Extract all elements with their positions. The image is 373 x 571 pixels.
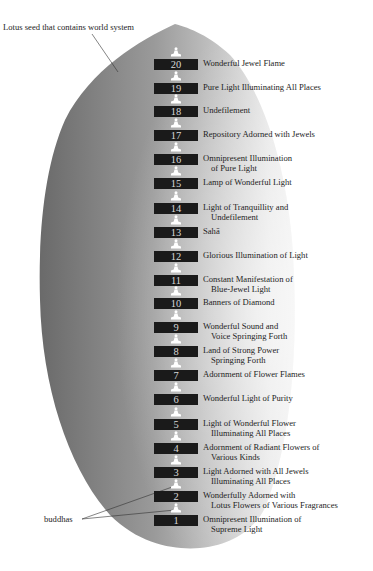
world-number: 7 bbox=[154, 370, 198, 381]
world-name-line1: Glorious Illumination of Light bbox=[203, 250, 308, 260]
buddha-icon bbox=[170, 94, 182, 104]
buddha-icon bbox=[170, 286, 182, 296]
world-name: Lamp of Wonderful Light bbox=[203, 177, 292, 187]
world-name-line1: Pure Light Illuminating All Places bbox=[203, 82, 321, 92]
world-name-line1: Light of Wonderful Flower bbox=[203, 418, 296, 428]
buddha-icon bbox=[170, 215, 182, 225]
world-number: 11 bbox=[154, 275, 198, 286]
world-name: Wonderful Jewel Flame bbox=[203, 58, 285, 68]
world-name: Wonderfully Adorned with Lotus Flowers o… bbox=[203, 490, 338, 510]
world-name: Omnipresent Illumination of Pure Light bbox=[203, 153, 292, 173]
world-number: 19 bbox=[154, 83, 198, 94]
world-name-line1: Constant Manifestation of bbox=[203, 274, 293, 284]
world-name-line1: Omnipresent Illumination bbox=[203, 153, 292, 163]
world-number: 18 bbox=[154, 106, 198, 117]
world-name: Adornment of Radiant Flowers of Various … bbox=[203, 442, 319, 462]
world-name: Omnipresent Illumination of Supreme Ligh… bbox=[203, 514, 301, 534]
world-name-line1: Banners of Diamond bbox=[203, 297, 275, 307]
world-number: 14 bbox=[154, 203, 198, 214]
world-name-line2: Undefilement bbox=[203, 212, 288, 222]
buddha-icon bbox=[170, 166, 182, 176]
world-name: Repository Adorned with Jewels bbox=[203, 129, 315, 139]
world-name: Pure Light Illuminating All Places bbox=[203, 82, 321, 92]
seed-label: Lotus seed that contains world system bbox=[3, 22, 134, 32]
world-number: 17 bbox=[154, 130, 198, 141]
world-name-line2: Illuminating All Places bbox=[203, 476, 309, 486]
world-name-line1: Adornment of Radiant Flowers of bbox=[203, 442, 319, 452]
world-number: 20 bbox=[154, 59, 198, 70]
world-name: Land of Strong Power Springing Forth bbox=[203, 345, 279, 365]
lotus-world-system-diagram: Lotus seed that contains world system bu… bbox=[0, 0, 373, 571]
world-number: 13 bbox=[154, 227, 198, 238]
world-number: 4 bbox=[154, 443, 198, 454]
world-name: Wonderful Light of Purity bbox=[203, 393, 293, 403]
world-number: 2 bbox=[154, 491, 198, 502]
buddha-icon bbox=[170, 358, 182, 368]
world-name-line1: Repository Adorned with Jewels bbox=[203, 129, 315, 139]
buddha-icon bbox=[170, 191, 182, 201]
world-name-line2: Supreme Light bbox=[203, 524, 301, 534]
buddha-icon bbox=[170, 382, 182, 392]
buddha-icon bbox=[170, 455, 182, 465]
world-number: 9 bbox=[154, 322, 198, 333]
world-number: 8 bbox=[154, 346, 198, 357]
world-name-line1: Omnipresent Illumination of bbox=[203, 514, 301, 524]
world-name: Sahā bbox=[203, 226, 220, 236]
world-name-line1: Lamp of Wonderful Light bbox=[203, 177, 292, 187]
world-name: Light of Tranquillity and Undefilement bbox=[203, 202, 288, 222]
world-number: 3 bbox=[154, 467, 198, 478]
world-name: Wonderful Sound and Voice Springing Fort… bbox=[203, 321, 287, 341]
world-name-line1: Land of Strong Power bbox=[203, 345, 279, 355]
world-name-line1: Adornment of Flower Flames bbox=[203, 369, 305, 379]
world-number: 5 bbox=[154, 419, 198, 430]
world-name: Adornment of Flower Flames bbox=[203, 369, 305, 379]
world-name-line2: Voice Springing Forth bbox=[203, 331, 287, 341]
world-name-line2: Lotus Flowers of Various Fragrances bbox=[203, 500, 338, 510]
buddha-icon bbox=[170, 310, 182, 320]
buddha-icon bbox=[170, 479, 182, 489]
world-name-line1: Wonderfully Adorned with bbox=[203, 490, 295, 500]
world-name-line1: Wonderful Light of Purity bbox=[203, 393, 293, 403]
world-name-line1: Sahā bbox=[203, 226, 220, 236]
world-number: 12 bbox=[154, 251, 198, 262]
buddha-icon bbox=[170, 407, 182, 417]
world-name-line2: Blue-Jewel Light bbox=[203, 284, 293, 294]
world-name-line1: Light Adorned with All Jewels bbox=[203, 466, 309, 476]
buddha-icon bbox=[170, 142, 182, 152]
world-name-line1: Wonderful Sound and bbox=[203, 321, 278, 331]
world-name: Light of Wonderful Flower Illuminating A… bbox=[203, 418, 296, 438]
buddha-icon bbox=[170, 118, 182, 128]
buddha-icon bbox=[170, 47, 182, 57]
world-name-line1: Light of Tranquillity and bbox=[203, 202, 288, 212]
world-number: 16 bbox=[154, 154, 198, 165]
world-name-line2: Various Kinds bbox=[203, 452, 319, 462]
buddha-icon bbox=[170, 334, 182, 344]
world-number: 6 bbox=[154, 394, 198, 405]
world-number: 1 bbox=[154, 515, 198, 526]
world-name: Banners of Diamond bbox=[203, 297, 275, 307]
buddha-icon bbox=[170, 263, 182, 273]
world-name: Glorious Illumination of Light bbox=[203, 250, 308, 260]
world-name-line2: of Pure Light bbox=[203, 163, 292, 173]
buddhas-label: buddhas bbox=[44, 514, 73, 524]
world-name-line2: Springing Forth bbox=[203, 355, 279, 365]
buddha-icon bbox=[170, 503, 182, 513]
buddha-icon bbox=[170, 71, 182, 81]
world-name: Light Adorned with All Jewels Illuminati… bbox=[203, 466, 309, 486]
buddha-icon bbox=[170, 239, 182, 249]
seed-callout-line bbox=[92, 34, 118, 72]
world-name: Constant Manifestation of Blue-Jewel Lig… bbox=[203, 274, 293, 294]
world-number: 15 bbox=[154, 178, 198, 189]
world-number: 10 bbox=[154, 298, 198, 309]
buddha-icon bbox=[170, 431, 182, 441]
world-name: Undefilement bbox=[203, 105, 250, 115]
world-name-line1: Undefilement bbox=[203, 105, 250, 115]
world-name-line1: Wonderful Jewel Flame bbox=[203, 58, 285, 68]
world-name-line2: Illuminating All Places bbox=[203, 428, 296, 438]
